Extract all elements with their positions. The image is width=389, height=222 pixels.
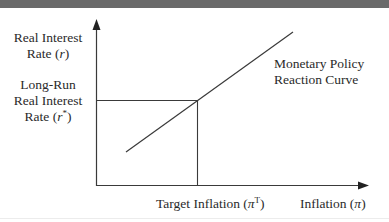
bottom-divider [0, 218, 389, 219]
long-run-label-line3: Rate (r*) [0, 109, 96, 125]
x-axis-arrow-icon [358, 182, 369, 190]
y-axis-label-line1: Real Interest [0, 30, 96, 46]
long-run-rate-label: Long-Run Real Interest Rate (r*) [0, 77, 96, 125]
x-axis-label: Inflation (π) [300, 196, 366, 212]
long-run-label-line1: Long-Run [0, 77, 96, 93]
reaction-curve-label: Monetary Policy Reaction Curve [274, 56, 364, 88]
curve-label-line2: Reaction Curve [274, 72, 364, 88]
y-axis-label: Real Interest Rate (r) [0, 30, 96, 62]
monetary-policy-reaction-curve [126, 32, 293, 152]
long-run-label-line2: Real Interest [0, 93, 96, 109]
y-axis-arrow-icon [93, 19, 101, 30]
y-axis-label-line2: Rate (r) [0, 46, 96, 62]
target-inflation-label: Target Inflation (πT) [156, 196, 265, 212]
curve-label-line1: Monetary Policy [274, 56, 364, 72]
